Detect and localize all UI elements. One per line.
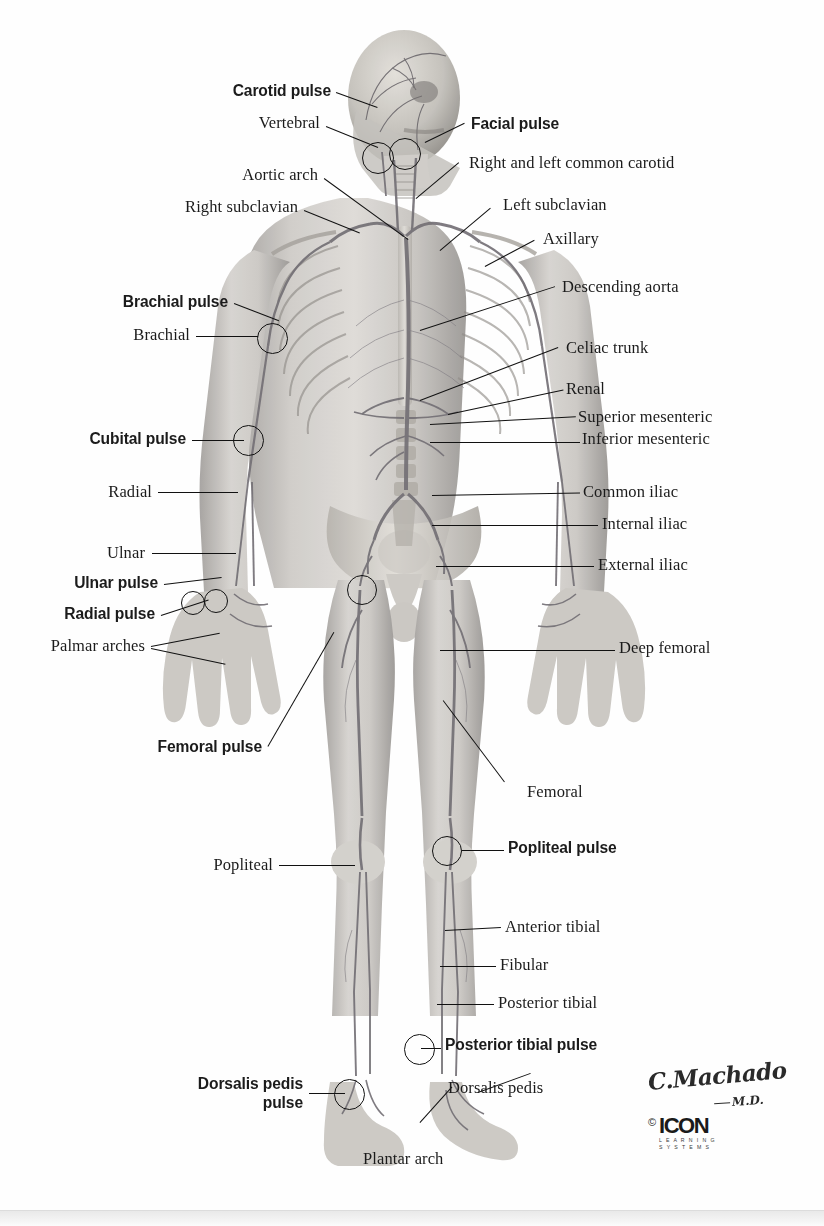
- leader-anterior-tibial: [445, 927, 501, 931]
- pulse-ring-posterior-tibial: [404, 1034, 435, 1065]
- publisher-brand: ICON: [659, 1116, 716, 1136]
- leader-descending-aorta: [420, 286, 555, 331]
- label-carotid-pulse: Carotid pulse: [233, 82, 331, 100]
- leader-carotid-pulse: [336, 92, 378, 108]
- label-aortic-arch: Aortic arch: [242, 165, 318, 184]
- label-posterior-tibial-pulse: Posterior tibial pulse: [445, 1036, 597, 1054]
- label-vertebral: Vertebral: [259, 113, 320, 132]
- label-brachial-pulse: Brachial pulse: [123, 293, 228, 311]
- label-celiac-trunk: Celiac trunk: [566, 338, 648, 357]
- pulse-ring-popliteal: [432, 836, 462, 866]
- leader-ulnar: [152, 553, 236, 554]
- leader-posterior-tibial: [437, 1004, 494, 1005]
- label-femoral: Femoral: [527, 782, 583, 801]
- leader-celiac-trunk: [420, 347, 559, 401]
- label-inferior-mesenteric: Inferior mesenteric: [582, 429, 710, 448]
- label-anterior-tibial: Anterior tibial: [505, 917, 600, 936]
- publisher-logo: © ICON L E A R N I N G S Y S T E M S: [648, 1116, 808, 1150]
- leader-palmar-arches-2: [151, 648, 226, 665]
- label-ulnar: Ulnar: [107, 543, 145, 562]
- label-left-subclavian: Left subclavian: [503, 195, 607, 214]
- leader-inferior-mesenteric: [430, 442, 580, 443]
- leader-external-iliac: [436, 566, 594, 567]
- pulse-ring-cubital: [233, 425, 264, 456]
- label-dorsalis-pedis-pulse-line1: Dorsalis pedis: [198, 1074, 303, 1093]
- leader-deep-femoral: [440, 650, 615, 651]
- label-dorsalis-pedis-pulse-line2: pulse: [198, 1093, 303, 1112]
- copyright-icon: ©: [648, 1116, 656, 1128]
- leader-left-subclavian: [440, 208, 491, 251]
- pulse-ring-radial: [181, 591, 205, 615]
- leader-palmar-arches-1: [151, 633, 220, 648]
- signature-credential: M.D.: [714, 1090, 809, 1111]
- label-dorsalis-pedis-pulse: Dorsalis pedis pulse: [198, 1074, 303, 1113]
- label-external-iliac: External iliac: [598, 555, 688, 574]
- label-fibular: Fibular: [500, 955, 548, 974]
- label-radial-pulse: Radial pulse: [64, 605, 155, 623]
- label-cubital-pulse: Cubital pulse: [89, 430, 186, 448]
- pulse-ring-dorsalis-pedis: [334, 1079, 365, 1110]
- leader-radial: [158, 492, 238, 493]
- label-palmar-arches: Palmar arches: [51, 636, 145, 655]
- leader-right-subclavian: [304, 210, 360, 234]
- label-brachial: Brachial: [133, 325, 190, 344]
- leader-ulnar-pulse: [164, 577, 222, 585]
- leader-femoral-pulse: [267, 632, 334, 747]
- label-axillary: Axillary: [543, 229, 599, 248]
- label-common-iliac: Common iliac: [583, 482, 678, 501]
- leader-popliteal: [279, 865, 355, 866]
- label-superior-mesenteric: Superior mesenteric: [578, 407, 712, 426]
- leader-common-iliac: [432, 492, 580, 496]
- pulse-ring-brachial: [257, 323, 288, 354]
- leader-facial-pulse: [425, 123, 465, 143]
- leader-brachial: [196, 336, 258, 337]
- leader-superior-mesenteric: [430, 416, 576, 425]
- label-deep-femoral: Deep femoral: [619, 638, 710, 657]
- publisher-brand-sub-line1: L E A R N I N G: [659, 1137, 716, 1143]
- pulse-ring-ulnar: [204, 589, 228, 613]
- leader-aortic-arch: [324, 178, 409, 240]
- label-descending-aorta: Descending aorta: [562, 277, 679, 296]
- publisher-brand-sub-line2: S Y S T E M S: [659, 1144, 716, 1150]
- leader-popliteal-pulse: [462, 850, 504, 851]
- label-femoral-pulse: Femoral pulse: [158, 738, 262, 756]
- artist-signature-block: C.Machado M.D. © ICON L E A R N I N G S …: [648, 1068, 808, 1176]
- label-internal-iliac: Internal iliac: [602, 514, 687, 533]
- page-bottom-band: [0, 1210, 824, 1226]
- signature-rule: [714, 1102, 730, 1105]
- label-facial-pulse: Facial pulse: [471, 115, 559, 133]
- leader-femoral: [442, 700, 504, 782]
- pulse-ring-femoral: [347, 575, 377, 605]
- label-popliteal-pulse: Popliteal pulse: [508, 839, 617, 857]
- signature-credential-text: M.D.: [732, 1093, 765, 1109]
- label-dorsalis-pedis: Dorsalis pedis: [448, 1078, 543, 1097]
- leader-common-carotid: [416, 162, 460, 199]
- label-posterior-tibial: Posterior tibial: [498, 993, 597, 1012]
- label-right-and-left-common-carotid: Right and left common carotid: [469, 153, 674, 172]
- leader-renal: [448, 389, 564, 415]
- label-popliteal: Popliteal: [213, 855, 273, 874]
- label-plantar-arch: Plantar arch: [363, 1149, 443, 1168]
- pulse-ring-facial: [389, 138, 421, 170]
- label-renal: Renal: [566, 379, 605, 398]
- leader-axillary: [485, 240, 535, 267]
- diagram-page: Carotid pulse Vertebral Aortic arch Righ…: [0, 0, 824, 1226]
- leader-fibular: [440, 966, 496, 967]
- label-ulnar-pulse: Ulnar pulse: [74, 574, 158, 592]
- publisher-logo-text-group: ICON L E A R N I N G S Y S T E M S: [659, 1116, 716, 1150]
- signature-name: C.Machado: [647, 1054, 809, 1095]
- leader-brachial-pulse: [234, 303, 279, 321]
- leader-internal-iliac: [432, 525, 598, 526]
- label-radial: Radial: [108, 482, 152, 501]
- label-right-subclavian: Right subclavian: [185, 197, 298, 216]
